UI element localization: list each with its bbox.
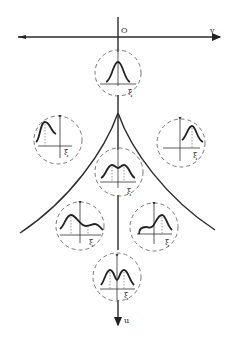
svg-text:ξ: ξ xyxy=(89,238,94,247)
inset-right: ξ xyxy=(157,119,205,167)
v-axis-label: v xyxy=(209,26,215,35)
u-axis-label: u xyxy=(124,316,129,325)
svg-text:ξ: ξ xyxy=(193,151,198,160)
inset-lower-left: ξ xyxy=(56,202,104,250)
cusp-right-branch xyxy=(118,113,215,230)
svg-text:ξ: ξ xyxy=(127,187,132,196)
cusp-diagram: O v u ξ ξ ξ xyxy=(0,0,235,347)
inset-center: ξ xyxy=(95,148,143,196)
v-axis xyxy=(18,35,220,39)
svg-text:ξ: ξ xyxy=(128,88,133,97)
inset-bottom: ξ xyxy=(93,253,141,301)
inset-left: ξ xyxy=(34,116,82,164)
inset-lower-right: ξ xyxy=(130,203,178,251)
svg-text:ξ: ξ xyxy=(124,291,129,300)
svg-text:ξ: ξ xyxy=(64,148,69,157)
inset-top: ξ xyxy=(95,50,141,97)
svg-text:ξ: ξ xyxy=(165,238,170,247)
origin-label: O xyxy=(121,26,128,35)
